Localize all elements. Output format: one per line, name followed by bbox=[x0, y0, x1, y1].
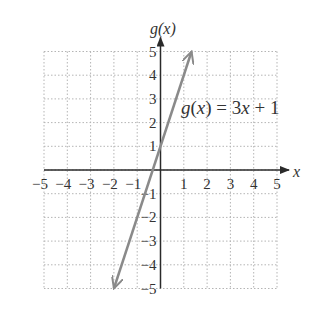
x-tick-label: −1 bbox=[125, 176, 141, 192]
y-tick-label: 1 bbox=[149, 138, 157, 154]
y-axis-label: g(x) bbox=[150, 20, 176, 38]
x-tick-label: −2 bbox=[102, 176, 118, 192]
x-tick-label: 4 bbox=[250, 176, 258, 192]
x-tick-label: 1 bbox=[180, 176, 188, 192]
x-axis-label: x bbox=[292, 163, 300, 180]
x-tick-label: −4 bbox=[55, 176, 71, 192]
y-tick-label: 3 bbox=[149, 91, 157, 107]
y-tick-label: 2 bbox=[149, 115, 157, 131]
x-tick-label: −3 bbox=[79, 176, 95, 192]
y-tick-label: −2 bbox=[141, 209, 157, 225]
equation-const: + 1 bbox=[250, 97, 280, 118]
y-tick-label: 4 bbox=[149, 67, 157, 83]
x-tick-label: 3 bbox=[227, 176, 235, 192]
equation-coef: = 3 bbox=[212, 97, 242, 118]
x-tick-label: 2 bbox=[203, 176, 211, 192]
x-tick-label: −5 bbox=[32, 176, 48, 192]
chart: −5−4−3−2−11234554321−1−2−3−4−5 g(x) x g(… bbox=[0, 0, 315, 310]
equation-annotation: g(x) = 3x + 1 bbox=[181, 97, 279, 119]
equation-function-name: g bbox=[181, 97, 191, 118]
y-tick-label: 5 bbox=[149, 44, 157, 60]
y-tick-label: −3 bbox=[141, 233, 157, 249]
y-tick-label: −4 bbox=[141, 257, 157, 273]
x-tick-label: 5 bbox=[273, 176, 281, 192]
y-tick-label: −5 bbox=[141, 281, 157, 297]
